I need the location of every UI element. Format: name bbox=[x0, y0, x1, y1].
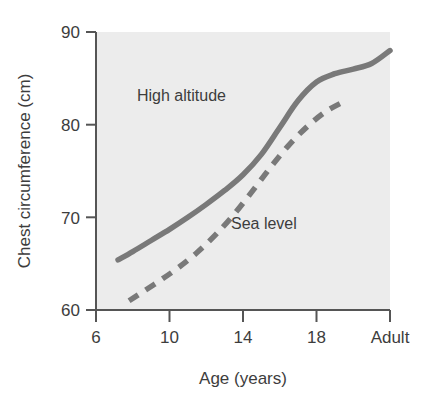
chest-circumference-line-chart: 90 80 70 60 6 10 14 18 Adult Age (years)… bbox=[0, 0, 439, 402]
y-tick-label-80: 80 bbox=[61, 116, 80, 135]
x-tick-label-14: 14 bbox=[234, 328, 253, 347]
y-tick-label-60: 60 bbox=[61, 301, 80, 320]
series-label-high-altitude: High altitude bbox=[137, 87, 226, 104]
x-tick-label-6: 6 bbox=[91, 328, 100, 347]
x-axis-ticks bbox=[96, 310, 390, 322]
y-tick-label-90: 90 bbox=[61, 23, 80, 42]
y-axis-ticks bbox=[86, 32, 96, 310]
x-tick-label-18: 18 bbox=[307, 328, 326, 347]
x-axis-title: Age (years) bbox=[199, 369, 287, 388]
series-label-sea-level: Sea level bbox=[231, 215, 297, 232]
chart-figure: 90 80 70 60 6 10 14 18 Adult Age (years)… bbox=[0, 0, 439, 402]
y-tick-label-70: 70 bbox=[61, 209, 80, 228]
x-tick-label-adult: Adult bbox=[371, 328, 410, 347]
y-axis-title: Chest circumference (cm) bbox=[15, 74, 34, 269]
x-tick-label-10: 10 bbox=[160, 328, 179, 347]
